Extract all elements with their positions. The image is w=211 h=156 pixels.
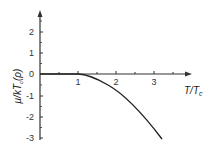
y-tick-label: 0	[29, 69, 34, 79]
y-axis-label: μ/kTc(ρ)	[12, 69, 24, 105]
x-axis-arrow-icon	[185, 72, 192, 77]
y-tick-label: -3	[26, 133, 34, 143]
x-tick-label: 1	[75, 77, 80, 87]
y-tick-label: 1	[29, 48, 34, 58]
chart: 2 1 0 -1 -2 -3 1 2 3 T/Tc μ/kTc(ρ)	[0, 0, 211, 156]
y-tick-label: 2	[29, 27, 34, 37]
x-tick-label: 2	[113, 77, 118, 87]
y-axis-arrow-icon	[38, 10, 43, 17]
y-tick-label: -1	[26, 91, 34, 101]
x-tick-label: 3	[151, 77, 156, 87]
chemical-potential-curve	[40, 74, 162, 139]
y-tick-label: -2	[26, 112, 34, 122]
x-axis-label: T/Tc	[184, 85, 203, 97]
